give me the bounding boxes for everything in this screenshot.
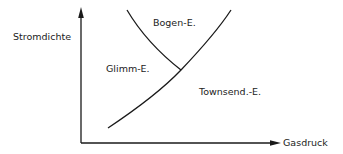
x-axis-label: Gasdruck xyxy=(283,137,328,148)
y-axis-label: Stromdichte xyxy=(13,31,71,42)
region-label-arc: Bogen-E. xyxy=(153,17,196,28)
y-axis-arrow-icon xyxy=(78,7,84,18)
region-label-glow: Glimm-E. xyxy=(106,63,150,74)
x-axis-arrow-icon xyxy=(270,140,281,146)
discharge-regimes-diagram: Stromdichte Gasdruck Bogen-E. Glimm-E. T… xyxy=(0,0,343,154)
region-label-townsend: Townsend.-E. xyxy=(198,86,261,97)
